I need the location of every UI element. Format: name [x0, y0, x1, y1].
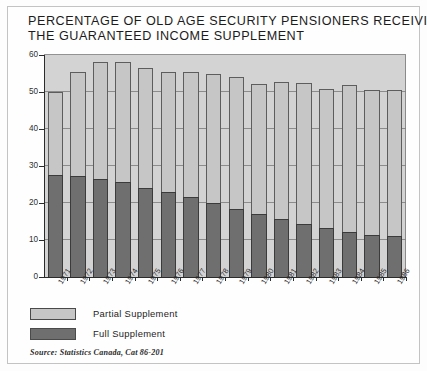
- legend-label-full: Full Supplement: [93, 328, 165, 339]
- y-axis-tick-label: 10: [4, 235, 38, 244]
- bar-column[interactable]: [229, 77, 244, 277]
- bar-column[interactable]: [161, 72, 176, 277]
- bar-column[interactable]: [319, 89, 334, 277]
- bar-segment-partial-supplement[interactable]: [115, 62, 130, 182]
- bar-column[interactable]: [115, 62, 130, 277]
- x-axis-tick: [180, 277, 181, 281]
- bar-segment-partial-supplement[interactable]: [206, 74, 221, 203]
- y-axis-tick: [39, 277, 44, 278]
- x-axis-tick: [248, 277, 249, 281]
- bar-segment-full-supplement[interactable]: [93, 179, 108, 277]
- x-axis-tick: [112, 277, 113, 281]
- bar-segment-full-supplement[interactable]: [206, 203, 221, 277]
- bar-segment-partial-supplement[interactable]: [48, 92, 63, 175]
- bar-segment-partial-supplement[interactable]: [93, 62, 108, 178]
- bar-column[interactable]: [183, 72, 198, 277]
- x-axis-tick: [361, 277, 362, 281]
- x-axis-tick: [157, 277, 158, 281]
- y-axis-tick: [39, 203, 44, 204]
- bar-segment-partial-supplement[interactable]: [387, 90, 402, 236]
- y-axis-tick: [39, 92, 44, 93]
- y-axis-tick-label: 50: [4, 87, 38, 96]
- bar-segment-full-supplement[interactable]: [274, 219, 289, 277]
- bar-segment-full-supplement[interactable]: [70, 176, 85, 277]
- chart-title-line-2: THE GUARANTEED INCOME SUPPLEMENT: [28, 29, 403, 44]
- bar-segment-partial-supplement[interactable]: [229, 77, 244, 208]
- y-axis-tick-label: 30: [4, 161, 38, 170]
- bar-segment-full-supplement[interactable]: [115, 182, 130, 277]
- x-axis-tick: [202, 277, 203, 281]
- x-axis-tick: [270, 277, 271, 281]
- bar-column[interactable]: [387, 90, 402, 277]
- x-axis-tick: [67, 277, 68, 281]
- bar-segment-full-supplement[interactable]: [48, 175, 63, 277]
- bar-segment-partial-supplement[interactable]: [296, 83, 311, 224]
- bar-segment-partial-supplement[interactable]: [364, 90, 379, 235]
- chart-title-line-1: PERCENTAGE OF OLD AGE SECURITY PENSIONER…: [28, 14, 403, 29]
- bar-segment-full-supplement[interactable]: [183, 197, 198, 277]
- y-axis-labels: 0102030405060: [0, 0, 38, 300]
- legend-swatch-partial: [30, 308, 76, 320]
- gridline: [44, 54, 406, 55]
- bar-column[interactable]: [138, 68, 153, 277]
- bar-segment-full-supplement[interactable]: [161, 192, 176, 277]
- bar-column[interactable]: [251, 84, 266, 277]
- x-axis-tick: [338, 277, 339, 281]
- figure-canvas: PERCENTAGE OF OLD AGE SECURITY PENSIONER…: [0, 0, 427, 371]
- y-axis-line: [44, 55, 45, 278]
- bar-column[interactable]: [93, 62, 108, 277]
- x-axis-tick: [383, 277, 384, 281]
- y-axis-tick-label: 60: [4, 50, 38, 59]
- bar-segment-full-supplement[interactable]: [296, 224, 311, 277]
- y-axis-tick: [39, 166, 44, 167]
- bar-segment-partial-supplement[interactable]: [342, 85, 357, 232]
- bar-column[interactable]: [48, 92, 63, 277]
- bar-column[interactable]: [70, 72, 85, 277]
- bar-segment-full-supplement[interactable]: [342, 232, 357, 277]
- bar-segment-partial-supplement[interactable]: [138, 68, 153, 188]
- x-axis-tick: [316, 277, 317, 281]
- bar-segment-partial-supplement[interactable]: [274, 82, 289, 219]
- bar-column[interactable]: [342, 85, 357, 277]
- bar-segment-full-supplement[interactable]: [251, 214, 266, 277]
- bar-segment-partial-supplement[interactable]: [161, 72, 176, 192]
- y-axis-tick-label: 0: [4, 272, 38, 281]
- chart-legend: Partial Supplement Full Supplement: [30, 306, 178, 346]
- bar-segment-partial-supplement[interactable]: [319, 89, 334, 228]
- bar-segment-full-supplement[interactable]: [319, 228, 334, 277]
- x-axis-tick: [135, 277, 136, 281]
- bar-column[interactable]: [364, 90, 379, 277]
- legend-swatch-full: [30, 328, 76, 340]
- x-axis-tick: [225, 277, 226, 281]
- legend-label-partial: Partial Supplement: [93, 308, 178, 319]
- bar-segment-full-supplement[interactable]: [229, 209, 244, 277]
- bar-column[interactable]: [206, 74, 221, 277]
- y-axis-tick: [39, 129, 44, 130]
- plot-area: [44, 55, 406, 277]
- legend-item-full: Full Supplement: [30, 326, 178, 341]
- y-axis-tick-label: 20: [4, 198, 38, 207]
- x-axis-tick: [406, 277, 407, 281]
- x-axis-tick: [89, 277, 90, 281]
- bar-segment-partial-supplement[interactable]: [183, 72, 198, 198]
- y-axis-tick: [39, 240, 44, 241]
- bar-segment-partial-supplement[interactable]: [251, 84, 266, 214]
- chart-title: PERCENTAGE OF OLD AGE SECURITY PENSIONER…: [28, 14, 403, 43]
- y-axis-tick: [39, 55, 44, 56]
- bar-segment-partial-supplement[interactable]: [70, 72, 85, 176]
- bar-column[interactable]: [296, 83, 311, 277]
- source-note: Source: Statistics Canada, Cat 86-201: [30, 348, 164, 357]
- y-axis-tick-label: 40: [4, 124, 38, 133]
- x-axis-tick: [293, 277, 294, 281]
- plot-area-wrapper: [44, 55, 406, 277]
- bar-column[interactable]: [274, 82, 289, 277]
- legend-item-partial: Partial Supplement: [30, 306, 178, 321]
- bar-segment-full-supplement[interactable]: [138, 188, 153, 277]
